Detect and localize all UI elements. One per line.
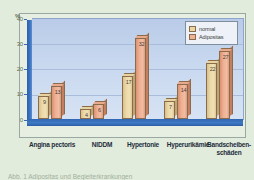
bar-front-face: 32	[135, 38, 146, 119]
y-tick-label-10: 10	[17, 91, 23, 97]
bar-front-face: 9	[38, 96, 49, 119]
bar-side-face	[62, 81, 65, 116]
legend-label-adipositas: Adipositas	[199, 34, 223, 40]
legend-label-normal: normal	[199, 26, 215, 32]
bar-bandscheibenschaeden-normal[interactable]: 22	[206, 63, 217, 119]
bar-value-label: 22	[207, 66, 218, 72]
x-label-bandscheiben-line2: schäden	[205, 149, 253, 157]
bar-value-label: 13	[52, 89, 63, 95]
x-axis-labels: Angina pectoris NIDDM Hypertonie Hyperur…	[19, 141, 248, 165]
bar-value-label: 9	[39, 99, 50, 105]
bar-value-label: 14	[178, 87, 189, 93]
bar-front-face: 4	[80, 109, 91, 119]
bar-hyperurikaemie-normal[interactable]: 7	[164, 101, 175, 119]
figure-container: % 40 30 20 10 0 9	[0, 0, 254, 180]
bar-hyperurikaemie-adipositas[interactable]: 14	[177, 84, 188, 119]
bar-angina-pectoris-adipositas[interactable]: 13	[51, 86, 62, 119]
chart-legend: normal Adipositas	[185, 21, 238, 45]
legend-item-adipositas[interactable]: Adipositas	[189, 33, 234, 41]
x-label-hypertonie: Hypertonie	[119, 141, 167, 149]
y-tick-label-0: 0	[20, 117, 23, 123]
bar-front-face: 6	[93, 104, 104, 119]
bar-value-label: 7	[165, 104, 176, 110]
figure-caption: Abb. 1 Adipositas und Begleiterkrankunge…	[8, 172, 248, 180]
bar-hypertonie-adipositas[interactable]: 32	[135, 38, 146, 119]
bar-side-face	[188, 79, 191, 116]
y-axis: 40 30 20 10 0	[0, 0, 27, 131]
bar-value-label: 17	[123, 79, 134, 85]
bar-niddm-normal[interactable]: 4	[80, 109, 91, 119]
y-tick-label-20: 20	[17, 66, 23, 72]
legend-swatch-icon-normal	[189, 26, 196, 32]
y-tick-label-40: 40	[17, 16, 23, 22]
bar-value-label: 27	[220, 54, 231, 60]
bar-front-face: 17	[122, 76, 133, 119]
bar-value-label: 4	[81, 112, 92, 118]
bar-front-face: 22	[206, 63, 217, 119]
x-label-angina-pectoris: Angina pectoris	[19, 141, 85, 149]
bar-value-label: 6	[94, 107, 105, 113]
legend-item-normal[interactable]: normal	[189, 25, 234, 33]
bar-angina-pectoris-normal[interactable]: 9	[38, 96, 49, 119]
bar-front-face: 13	[51, 86, 62, 119]
bar-niddm-adipositas[interactable]: 6	[93, 104, 104, 119]
x-label-niddm: NIDDM	[81, 141, 123, 149]
bar-front-face: 7	[164, 101, 175, 119]
bar-front-face: 27	[219, 51, 230, 119]
bar-bandscheibenschaeden-adipositas[interactable]: 27	[219, 51, 230, 119]
legend-swatch-icon-adipositas	[189, 34, 196, 40]
bar-front-face: 14	[177, 84, 188, 119]
y-tick-label-30: 30	[17, 41, 23, 47]
bar-hypertonie-normal[interactable]: 17	[122, 76, 133, 119]
bar-value-label: 32	[136, 41, 147, 47]
x-label-bandscheiben-line1: Bandscheiben-	[205, 141, 253, 149]
